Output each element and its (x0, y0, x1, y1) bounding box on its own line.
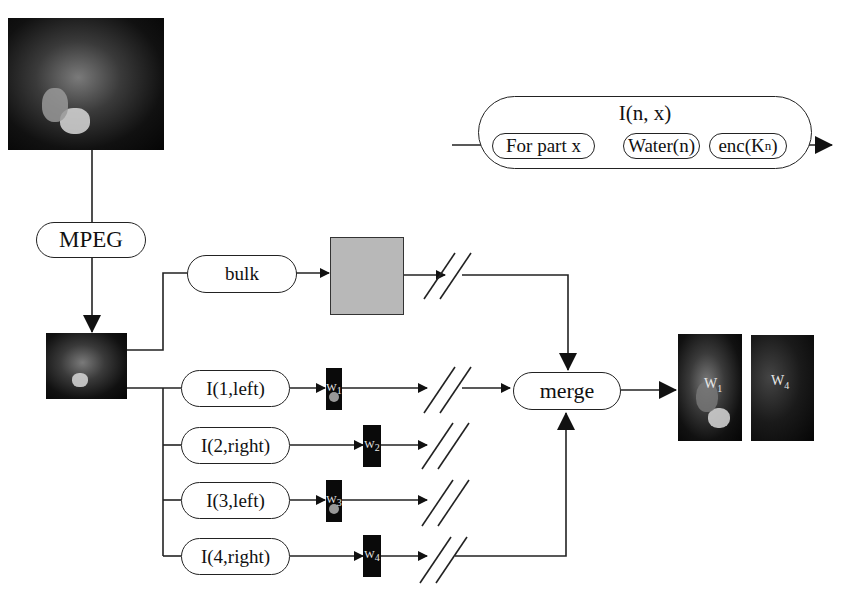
branch-node-3: I(3,left) (181, 482, 290, 519)
merge-node: merge (513, 372, 621, 410)
watermarked-part-4: W4 (363, 535, 381, 577)
branch-node-2: I(2,right) (181, 427, 290, 464)
output-image-w4: W4 (751, 335, 814, 441)
mpeg-node: MPEG (36, 222, 146, 258)
branch-node-4: I(4,right) (181, 538, 290, 575)
watermarked-part-2: W2 (363, 425, 381, 467)
encoded-video-image (46, 333, 127, 399)
legend-step-for-part: For part x (492, 133, 595, 159)
branch-node-1: I(1,left) (181, 370, 290, 407)
source-video-image (8, 18, 164, 150)
watermarked-part-3: W3 (326, 480, 342, 522)
legend-step-water: Water(n) (623, 133, 700, 159)
watermarked-part-1: W1 (326, 368, 342, 410)
legend-outer-label: I(n, x) (619, 101, 671, 126)
legend-step-enc: enc(Kn) (709, 133, 787, 159)
bulk-node: bulk (187, 255, 297, 293)
double-slash-symbols (420, 253, 471, 583)
encrypted-bulk-box (330, 237, 404, 315)
output-image-w1: W1 (678, 334, 742, 441)
caption-fragment (0, 0, 854, 6)
